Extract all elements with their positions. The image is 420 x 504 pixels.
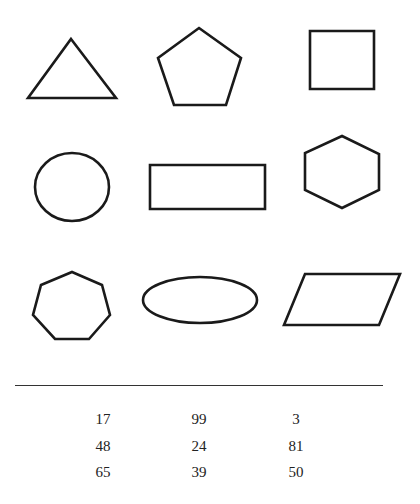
shapes-canvas [0, 0, 420, 504]
parallelogram-shape [284, 274, 400, 325]
number-cell: 50 [276, 463, 316, 481]
square-shape [310, 31, 374, 89]
number-cell: 17 [83, 410, 123, 428]
number-cell: 99 [179, 410, 219, 428]
number-cell: 39 [179, 463, 219, 481]
ellipse-shape [143, 277, 257, 323]
hexagon-shape [305, 136, 379, 208]
number-cell: 48 [83, 437, 123, 455]
divider-line [15, 385, 383, 386]
circle-shape [35, 153, 109, 221]
number-cell: 81 [276, 437, 316, 455]
triangle-shape [28, 39, 116, 98]
number-cell: 65 [83, 463, 123, 481]
heptagon-shape [33, 272, 110, 339]
number-cell: 3 [276, 410, 316, 428]
pentagon-shape [158, 28, 241, 105]
number-cell: 24 [179, 437, 219, 455]
rectangle-shape [150, 165, 265, 209]
